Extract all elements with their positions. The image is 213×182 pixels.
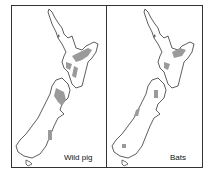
panel-label: Wild pig bbox=[64, 153, 92, 162]
panel-bats: Bats bbox=[108, 6, 203, 167]
panel-wild-pig: Wild pig bbox=[12, 6, 107, 167]
distribution-area bbox=[154, 90, 158, 98]
nz-map-wild-pig bbox=[12, 6, 107, 167]
distribution-area bbox=[122, 144, 126, 148]
distribution-area bbox=[48, 130, 52, 140]
panel-label: Bats bbox=[170, 153, 186, 162]
nz-map-bats bbox=[108, 6, 203, 167]
